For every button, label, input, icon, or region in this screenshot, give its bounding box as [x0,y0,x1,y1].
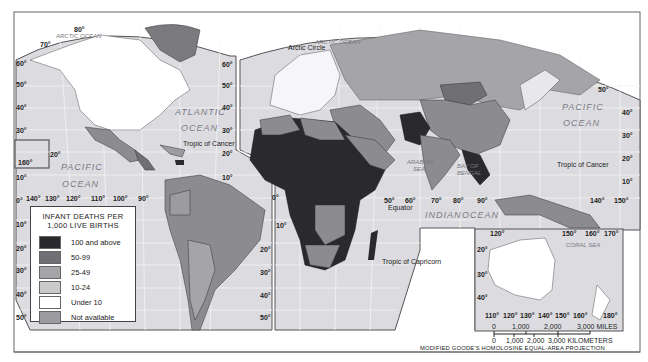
bay-of-bengal-label-2: BENGAL [457,170,481,176]
indian-label-1: INDIAN [425,210,462,220]
svg-text:160°: 160° [573,312,588,319]
legend-title-line1: INFANT DEATHS PER [31,212,135,221]
svg-text:60°: 60° [405,197,416,204]
pacific-right-label-2: OCEAN [563,118,600,128]
svg-text:10°: 10° [222,174,233,181]
arctic-circle-label: Arctic Circle [288,44,325,51]
legend-item: 25-49 [39,265,135,280]
legend: INFANT DEATHS PER 1,000 LIVE BIRTHS 100 … [30,206,136,322]
svg-text:30°: 30° [16,127,27,134]
scale-km-1000: 1,000 [506,337,524,344]
svg-text:30°: 30° [16,267,27,274]
svg-text:30°: 30° [477,271,488,278]
legend-swatch [39,311,61,324]
svg-text:40°: 40° [622,109,633,116]
pacific-right-label-1: PACIFIC [562,102,604,112]
hawaii-longitude-label: 160° [18,159,33,166]
legend-item: Under 10 [39,295,135,310]
svg-text:110°: 110° [485,312,499,319]
legend-label: 50-99 [71,253,90,262]
svg-text:20°: 20° [622,155,633,162]
tropic-capricorn-label: Tropic of Capricorn [382,258,441,266]
svg-text:20°: 20° [50,151,61,158]
legend-title: INFANT DEATHS PER 1,000 LIVE BIRTHS [31,212,135,230]
svg-text:150°: 150° [562,230,577,237]
equator-label: Equator [388,204,413,212]
indian-label-2: OCEAN [462,210,499,220]
svg-text:10°: 10° [276,222,287,229]
legend-item: Not available [39,310,135,325]
svg-text:90°: 90° [477,197,488,204]
svg-text:130°: 130° [520,312,535,319]
legend-swatch [39,266,61,279]
scale-km-2000: 2,000 [527,337,545,344]
svg-text:0°: 0° [16,197,23,204]
legend-swatch [39,236,61,249]
svg-text:180°: 180° [603,312,618,319]
svg-text:110°: 110° [91,195,105,202]
legend-label: 25-49 [71,268,90,277]
svg-text:140°: 140° [590,197,605,204]
svg-text:40°: 40° [260,292,271,299]
legend-item: 50-99 [39,250,135,265]
legend-label: 100 and above [71,238,121,247]
svg-text:50°: 50° [16,314,27,321]
legend-label: Not available [71,313,114,322]
legend-title-line2: 1,000 LIVE BIRTHS [31,221,135,230]
atlantic-label-1: ATLANTIC [174,107,226,117]
legend-item: 10-24 [39,280,135,295]
svg-text:0°: 0° [272,194,279,201]
scale-miles-2000: 2,000 [544,323,562,330]
svg-text:60°: 60° [16,60,27,67]
arctic-ocean-left-label: ARCTIC OCEAN [55,33,102,39]
arabian-sea-label-1: ARABIAN [406,159,434,165]
scale-miles-0: 0 [492,323,496,330]
svg-text:10°: 10° [16,174,27,181]
legend-swatch [39,281,61,294]
svg-text:120°: 120° [503,312,518,319]
pacific-left-label-2: OCEAN [62,179,99,189]
svg-text:160°: 160° [585,230,600,237]
haiti [175,160,184,165]
tropic-cancer-left-label: Tropic of Cancer [183,140,235,148]
svg-text:20°: 20° [260,246,271,253]
svg-text:30°: 30° [260,269,271,276]
svg-text:20°: 20° [16,245,27,252]
svg-text:120°: 120° [490,230,505,237]
svg-text:40°: 40° [16,291,27,298]
svg-text:120°: 120° [66,195,81,202]
svg-text:50°: 50° [16,81,27,88]
svg-text:50°: 50° [222,82,233,89]
svg-text:30°: 30° [622,132,633,139]
svg-text:130°: 130° [45,195,60,202]
svg-text:170°: 170° [604,230,619,237]
svg-text:20°: 20° [477,246,488,253]
svg-text:10°: 10° [16,221,27,228]
svg-text:40°: 40° [222,104,233,111]
legend-label: Under 10 [71,298,102,307]
scale-km-0: 0 [492,337,496,344]
pacific-left-label-1: PACIFIC [61,162,103,172]
scale-km-3000: 3,000 KILOMETERS [548,337,613,344]
tropic-cancer-right-label: Tropic of Cancer [557,161,609,169]
svg-text:50°: 50° [598,86,609,93]
svg-text:140°: 140° [26,195,41,202]
svg-text:70°: 70° [40,41,51,48]
svg-text:30°: 30° [222,127,233,134]
scale-miles-1000: 1,000 [512,323,530,330]
atlantic-label-2: OCEAN [181,123,218,133]
svg-text:150°: 150° [555,312,570,319]
svg-text:50°: 50° [260,314,271,321]
svg-text:100°: 100° [113,195,128,202]
scale-miles-3000: 3,000 MILES [577,323,618,330]
legend-item: 100 and above [39,235,135,250]
svg-text:40°: 40° [16,104,27,111]
arabian-sea-label-2: SEA [413,166,425,172]
legend-swatch [39,296,61,309]
coral-sea-label: CORAL SEA [566,242,600,248]
svg-text:70°: 70° [431,197,442,204]
svg-text:50°: 50° [384,197,395,204]
svg-text:60°: 60° [222,61,233,68]
bay-of-bengal-label-1: BAY OF [457,163,479,169]
svg-text:40°: 40° [477,294,488,301]
